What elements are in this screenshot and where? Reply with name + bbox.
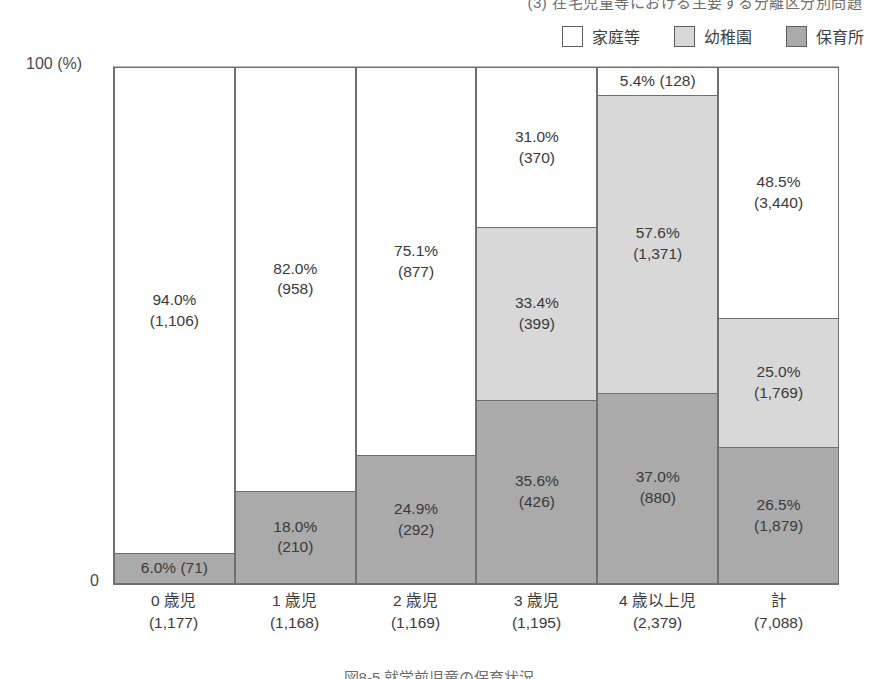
bar-column[interactable]: 5.4% (128)57.6% (1,371)37.0% (880) (597, 67, 718, 584)
bar-segment-label: 94.0% (1,106) (150, 290, 199, 332)
plot-area: 94.0% (1,106)6.0% (71)82.0% (958)18.0% (… (113, 66, 839, 585)
bar-segment-katei[interactable]: 5.4% (128) (597, 67, 718, 95)
bar-segment-label: 37.0% (880) (636, 467, 680, 509)
bar-segment-label: 24.9% (292) (394, 499, 438, 541)
chart-page: (3) 在宅児童等における主要する分離区分別問題 家庭等 幼稚園 保育所 100… (0, 0, 878, 679)
x-axis-label: 2 歳児 (1,169) (355, 590, 476, 635)
legend-label-katei: 家庭等 (592, 24, 640, 48)
legend-swatch-katei (562, 26, 583, 47)
chart-legend: 家庭等 幼稚園 保育所 (0, 24, 878, 48)
bar-segment-katei[interactable]: 48.5% (3,440) (718, 67, 839, 318)
bar-segment-label: 35.6% (426) (515, 471, 559, 513)
x-axis-label: 4 歳以上児 (2,379) (597, 590, 718, 635)
legend-item-hoikujo: 保育所 (786, 24, 864, 48)
bar-column[interactable]: 48.5% (3,440)25.0% (1,769)26.5% (1,879) (718, 67, 839, 584)
bar-segment-hoiku[interactable]: 37.0% (880) (597, 393, 718, 584)
bar-segment-hoiku[interactable]: 35.6% (426) (476, 400, 597, 584)
bar-segment-label: 18.0% (210) (273, 517, 317, 559)
bar-segment-katei[interactable]: 75.1% (877) (356, 67, 477, 455)
x-axis-label: 1 歳児 (1,168) (234, 590, 355, 635)
bar-segment-hoiku[interactable]: 24.9% (292) (356, 455, 477, 584)
bar-segment-label: 75.1% (877) (394, 241, 438, 283)
x-axis-label: 0 歳児 (1,177) (113, 590, 234, 635)
bar-column[interactable]: 31.0% (370)33.4% (399)35.6% (426) (476, 67, 597, 584)
bar-segment-hoiku[interactable]: 6.0% (71) (114, 553, 235, 584)
bar-segment-label: 57.6% (1,371) (633, 223, 682, 265)
bar-column[interactable]: 94.0% (1,106)6.0% (71) (114, 67, 235, 584)
bar-group: 94.0% (1,106)6.0% (71)82.0% (958)18.0% (… (114, 67, 839, 584)
bar-segment-hoiku[interactable]: 26.5% (1,879) (718, 447, 839, 584)
legend-label-hoikujo: 保育所 (816, 24, 864, 48)
bar-segment-label: 6.0% (71) (141, 558, 208, 579)
y-axis-zero-label: 0 (90, 572, 99, 590)
bar-segment-label: 5.4% (128) (620, 71, 696, 92)
bar-segment-label: 26.5% (1,879) (754, 495, 803, 537)
y-axis-top-label: 100 (%) (26, 55, 82, 73)
x-axis-label: 3 歳児 (1,195) (476, 590, 597, 635)
bar-segment-katei[interactable]: 94.0% (1,106) (114, 67, 235, 553)
bar-segment-hoiku[interactable]: 18.0% (210) (235, 491, 356, 584)
bar-segment-katei[interactable]: 82.0% (958) (235, 67, 356, 491)
legend-item-katei: 家庭等 (562, 24, 640, 48)
legend-swatch-hoikujo (786, 26, 807, 47)
bar-segment-katei[interactable]: 31.0% (370) (476, 67, 597, 227)
bottom-caption: 図8-5 就学前児童の保育状況 (0, 666, 878, 679)
x-axis-label: 計 (7,088) (718, 590, 839, 635)
bar-segment-label: 33.4% (399) (515, 293, 559, 335)
legend-item-youchien: 幼稚園 (674, 24, 752, 48)
bar-segment-youchi[interactable]: 33.4% (399) (476, 227, 597, 400)
bar-column[interactable]: 82.0% (958)18.0% (210) (235, 67, 356, 584)
top-caption: (3) 在宅児童等における主要する分離区分別問題 (0, 0, 878, 12)
legend-label-youchien: 幼稚園 (704, 24, 752, 48)
x-axis-labels: 0 歳児 (1,177)1 歳児 (1,168)2 歳児 (1,169)3 歳児… (113, 590, 839, 635)
legend-swatch-youchien (674, 26, 695, 47)
bar-segment-label: 31.0% (370) (515, 127, 559, 169)
bar-segment-youchi[interactable]: 25.0% (1,769) (718, 318, 839, 447)
bar-column[interactable]: 75.1% (877)24.9% (292) (356, 67, 477, 584)
bar-segment-label: 48.5% (3,440) (754, 172, 803, 214)
bar-segment-youchi[interactable]: 57.6% (1,371) (597, 95, 718, 393)
bar-segment-label: 25.0% (1,769) (754, 362, 803, 404)
bar-segment-label: 82.0% (958) (273, 259, 317, 301)
